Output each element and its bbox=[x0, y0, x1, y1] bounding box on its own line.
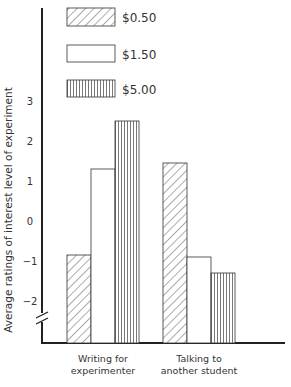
y-tick-label: 3 bbox=[27, 96, 33, 107]
y-tick-label: −1 bbox=[23, 256, 38, 267]
legend-item-1.50: $1.50 bbox=[67, 45, 156, 62]
bar bbox=[67, 255, 91, 343]
legend-item-0.50: $0.50 bbox=[67, 8, 156, 26]
legend-label: $1.50 bbox=[122, 48, 156, 62]
legend-swatch-plain bbox=[67, 45, 115, 62]
x-category-label: another student bbox=[161, 365, 238, 376]
x-axis-category-labels: Writing forexperimenterTalking toanother… bbox=[71, 353, 238, 376]
bar-chart: Average ratings of interest level of exp… bbox=[0, 0, 291, 387]
bar bbox=[163, 163, 187, 343]
bar bbox=[115, 121, 139, 343]
legend-swatch-hatch bbox=[67, 8, 115, 26]
legend-item-5.00: $5.00 bbox=[67, 80, 156, 97]
y-tick-label: 2 bbox=[27, 136, 33, 147]
x-category-label: Writing for bbox=[78, 353, 128, 364]
y-tick-label: 1 bbox=[27, 176, 33, 187]
legend: $0.50 $1.50 $5.00 bbox=[67, 8, 156, 97]
x-category-label: Talking to bbox=[175, 353, 222, 364]
x-category-label: experimenter bbox=[71, 365, 135, 376]
y-tick-label: −2 bbox=[23, 296, 38, 307]
y-axis-ticks: 3210−1−2 bbox=[23, 96, 38, 307]
legend-label: $0.50 bbox=[122, 11, 156, 25]
legend-label: $5.00 bbox=[122, 83, 156, 97]
bar bbox=[187, 257, 211, 343]
bar bbox=[91, 169, 115, 343]
bar bbox=[211, 273, 235, 343]
y-axis-label: Average ratings of interest level of exp… bbox=[2, 87, 14, 333]
y-tick-label: 0 bbox=[27, 216, 33, 227]
legend-swatch-vertical bbox=[67, 80, 115, 97]
bars bbox=[67, 121, 235, 343]
